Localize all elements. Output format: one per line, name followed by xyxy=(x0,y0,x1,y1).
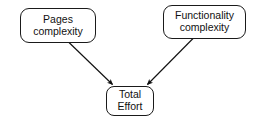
edge-line-functionality-to-total xyxy=(148,39,194,85)
node-total-effort-line-2: Effort xyxy=(118,101,143,113)
node-functionality-complexity[interactable]: Functionality complexity xyxy=(163,5,246,39)
diagram-canvas: Pages complexity Functionality complexit… xyxy=(0,0,255,124)
node-pages-complexity-line-2: complexity xyxy=(33,26,83,38)
edge-functionality-to-total-effort xyxy=(148,39,194,85)
node-functionality-complexity-line-2: complexity xyxy=(180,22,230,34)
node-pages-complexity[interactable]: Pages complexity xyxy=(20,8,96,43)
node-pages-complexity-line-1: Pages xyxy=(43,14,73,26)
node-total-effort[interactable]: Total Effort xyxy=(106,86,154,116)
edge-pages-to-total-effort xyxy=(69,43,113,85)
edge-line-pages-to-total xyxy=(69,43,113,85)
